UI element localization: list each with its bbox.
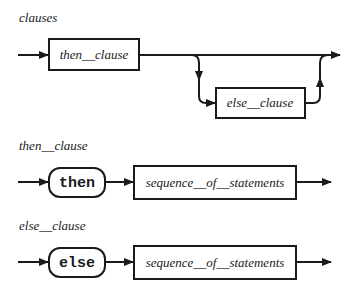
terminal-else-label: else: [59, 255, 95, 272]
nonterminal-else-clause-label: else__clause: [227, 95, 294, 110]
rule-title-clauses: clauses: [19, 10, 57, 25]
railroad-diagram: clauses then__clause else__clause then__…: [0, 0, 355, 299]
rule-title-else-clause: else__clause: [19, 218, 86, 233]
branch-into-else-arrow: [199, 80, 215, 103]
nonterminal-sequence-of-statements-label: sequence__of__statements: [146, 175, 285, 190]
rule-title-then-clause: then__clause: [19, 138, 88, 153]
rule-clauses: clauses then__clause else__clause: [18, 10, 340, 118]
terminal-then-label: then: [59, 175, 95, 192]
rule-else-clause: else__clause else sequence__of__statemen…: [18, 218, 331, 279]
rule-then-clause: then__clause then sequence__of__statemen…: [18, 138, 331, 199]
branch-down-arrow: [192, 55, 199, 80]
branch-up-arrow: [305, 78, 320, 103]
nonterminal-sequence-of-statements-label: sequence__of__statements: [146, 255, 285, 270]
branch-rejoin: [320, 55, 328, 78]
nonterminal-then-clause-label: then__clause: [60, 47, 129, 62]
